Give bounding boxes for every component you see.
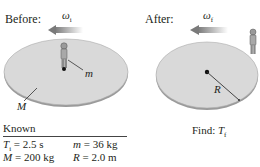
omega-final-label: ωf [203, 9, 213, 24]
after-rotation-arrow [190, 25, 228, 35]
after-title: After: [145, 12, 174, 27]
known-person-mass: m = 36 kg [73, 138, 117, 150]
known-radius: R = 2.0 m [73, 151, 117, 163]
find-label: Find: Tf [192, 124, 226, 139]
known-divider [3, 136, 127, 137]
person-mass-label: m [85, 67, 93, 79]
before-rotation-arrow [48, 25, 83, 35]
known-heading: Known [3, 122, 35, 134]
disk-mass-label: M [17, 100, 26, 112]
after-person-figure [250, 29, 256, 54]
after-disk [156, 42, 258, 110]
known-disk-mass: M = 200 kg [3, 151, 54, 163]
omega-initial-label: ωi [62, 9, 72, 24]
radius-label: R [214, 83, 221, 95]
before-title: Before: [5, 12, 41, 27]
